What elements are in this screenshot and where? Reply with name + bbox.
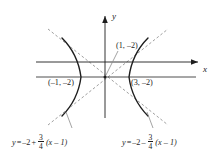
eq-left-equals: = [17, 138, 22, 147]
eq-left-y: y [12, 138, 16, 147]
eq-right-factor: (x – 1) [155, 138, 176, 147]
eq-left-sign: + [31, 138, 36, 147]
y-axis [102, 16, 108, 118]
leader-line-right-equation [147, 112, 153, 128]
eq-left-const: –2 [22, 138, 30, 147]
asymptote-equation-right: y = –2 – 3 4 (x – 1) [122, 134, 177, 151]
leader-line-center-label [106, 51, 118, 75]
eq-right-y: y [122, 138, 126, 147]
asymptote-equation-left: y = –2 + 3 4 (x – 1) [12, 134, 67, 151]
center-point-label: (1, –2) [116, 42, 138, 50]
eq-right-const: –2 [132, 138, 140, 147]
eq-left-numerator: 3 [38, 134, 44, 142]
y-axis-label: y [112, 12, 116, 21]
eq-right-sign: – [141, 138, 145, 147]
eq-right-fraction: 3 4 [148, 134, 154, 151]
vertex-left-label: (–1, –2) [48, 79, 74, 87]
center-point-marker [104, 76, 107, 79]
eq-left-denominator: 4 [38, 141, 44, 150]
x-axis-label: x [203, 65, 207, 74]
eq-left-factor: (x – 1) [46, 138, 67, 147]
eq-right-denominator: 4 [148, 141, 154, 150]
vertex-right-label: (3, –2) [131, 79, 153, 87]
leader-line-left-equation [66, 112, 72, 128]
eq-left-fraction: 3 4 [38, 134, 44, 151]
x-axis [36, 59, 198, 65]
eq-right-numerator: 3 [148, 134, 154, 142]
eq-right-equals: = [127, 138, 132, 147]
